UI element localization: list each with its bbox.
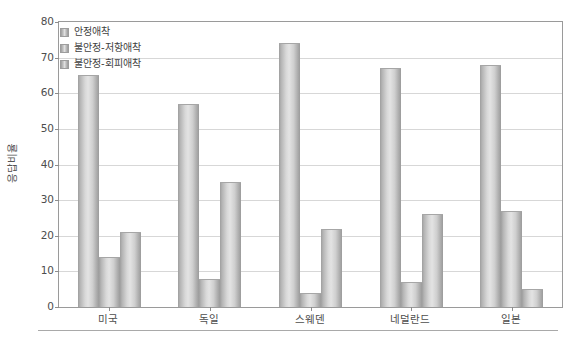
x-axis-label-스웨덴: 스웨덴 bbox=[295, 311, 325, 326]
bar-미국-불안정-회피애착 bbox=[120, 232, 141, 307]
legend-swatch-icon-1 bbox=[60, 28, 69, 37]
bar-미국-안정애착 bbox=[78, 75, 99, 307]
bar-일본-불안정-저항애착 bbox=[501, 211, 522, 307]
y-axis-title: 응답비율 bbox=[2, 128, 24, 198]
y-tickmark-60 bbox=[55, 93, 59, 94]
bar-독일-불안정-저항애착 bbox=[199, 279, 220, 308]
y-tickmark-10 bbox=[55, 271, 59, 272]
x-axis-label-미국: 미국 bbox=[98, 311, 118, 326]
legend-label-2: 불안정-저항애착 bbox=[74, 43, 141, 53]
y-axis-tick-30: 30 bbox=[26, 193, 54, 205]
y-tickmark-0 bbox=[55, 307, 59, 308]
y-tickmark-40 bbox=[55, 165, 59, 166]
bar-스웨덴-불안정-저항애착 bbox=[300, 293, 321, 307]
y-tickmark-20 bbox=[55, 236, 59, 237]
x-axis-label-일본: 일본 bbox=[501, 311, 521, 326]
legend-item-1: 안정애착 bbox=[60, 26, 141, 38]
bar-네덜란드-안정애착 bbox=[380, 68, 401, 307]
y-tickmark-50 bbox=[55, 129, 59, 130]
legend-item-2: 불안정-저항애착 bbox=[60, 42, 141, 54]
chart-legend: 안정애착불안정-저항애착불안정-회피애착 bbox=[60, 26, 141, 70]
y-axis-tick-60: 60 bbox=[26, 86, 54, 98]
x-axis-label-독일: 독일 bbox=[199, 311, 219, 326]
y-axis-tick-labels: 80706050403020100 bbox=[26, 0, 54, 342]
bar-독일-안정애착 bbox=[178, 104, 199, 307]
y-axis-tick-20: 20 bbox=[26, 229, 54, 241]
bar-네덜란드-불안정-저항애착 bbox=[401, 282, 422, 307]
y-tickmark-70 bbox=[55, 58, 59, 59]
bar-미국-불안정-저항애착 bbox=[99, 257, 120, 307]
bottom-divider-rule bbox=[38, 330, 558, 331]
bar-스웨덴-불안정-회피애착 bbox=[321, 229, 342, 307]
legend-swatch-icon-3 bbox=[60, 60, 69, 69]
bar-독일-불안정-회피애착 bbox=[220, 182, 241, 307]
bar-일본-안정애착 bbox=[480, 65, 501, 307]
y-tickmark-80 bbox=[55, 22, 59, 23]
legend-swatch-icon-2 bbox=[60, 44, 69, 53]
y-tickmark-30 bbox=[55, 200, 59, 201]
y-axis-tick-50: 50 bbox=[26, 122, 54, 134]
bar-일본-불안정-회피애착 bbox=[522, 289, 543, 307]
y-axis-tick-40: 40 bbox=[26, 158, 54, 170]
legend-label-1: 안정애착 bbox=[74, 27, 110, 37]
bar-네덜란드-불안정-회피애착 bbox=[422, 214, 443, 307]
y-axis-tick-10: 10 bbox=[26, 264, 54, 276]
bar-스웨덴-안정애착 bbox=[279, 43, 300, 307]
x-axis-label-네덜란드: 네덜란드 bbox=[390, 311, 430, 326]
y-axis-title-text: 응답비율 bbox=[7, 143, 18, 183]
legend-item-3: 불안정-회피애착 bbox=[60, 58, 141, 70]
bar-chart-figure: 응답비율 80706050403020100 안정애착불안정-저항애착불안정-회… bbox=[0, 0, 579, 342]
y-axis-tick-80: 80 bbox=[26, 15, 54, 27]
legend-label-3: 불안정-회피애착 bbox=[74, 59, 141, 69]
y-axis-tick-0: 0 bbox=[26, 300, 54, 312]
y-axis-tick-70: 70 bbox=[26, 51, 54, 63]
